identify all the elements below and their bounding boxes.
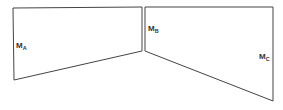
panel-a [13, 7, 142, 80]
label-mb: MB [148, 24, 159, 34]
panel-b [145, 7, 273, 101]
mirror-diagram: MA MB MC [0, 0, 283, 110]
label-mc: MC [259, 52, 270, 62]
label-ma: MA [16, 41, 27, 51]
